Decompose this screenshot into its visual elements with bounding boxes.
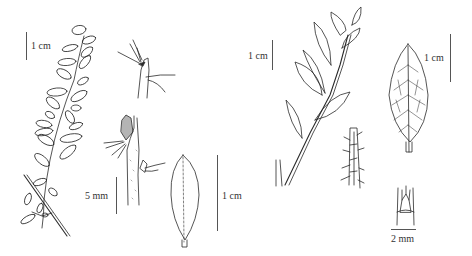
- scale-label-panel-d: 1 cm: [222, 191, 242, 201]
- reticulate-veined-leaf: [389, 44, 428, 152]
- scale-label-panel-a: 1 cm: [31, 41, 51, 51]
- scale-bar-panel-a: [26, 32, 27, 60]
- scale-label-panel-g: 1 cm: [424, 53, 444, 63]
- scale-bar-panel-g: [450, 34, 451, 82]
- hairy-stem-segment: [341, 128, 364, 188]
- scale-bar-panel-e: [272, 40, 273, 70]
- scale-bar-panel-c: [116, 177, 117, 214]
- stem-node-with-bud: [104, 115, 165, 205]
- leafy-branch-small-leaves: [20, 24, 97, 236]
- scale-label-panel-h: 2 mm: [391, 234, 414, 244]
- elliptic-leaf-stippled: [171, 155, 199, 247]
- scale-label-panel-e: 1 cm: [248, 51, 268, 61]
- leafy-branch-large-leaves: [276, 7, 361, 186]
- node-detail-hairs: [118, 40, 175, 98]
- scale-bar-panel-d: [217, 155, 218, 231]
- scale-label-panel-c: 5 mm: [85, 191, 108, 201]
- scale-bar-panel-h: [391, 229, 416, 230]
- stipule-detail: [397, 186, 414, 225]
- botanical-illustration: [0, 0, 472, 256]
